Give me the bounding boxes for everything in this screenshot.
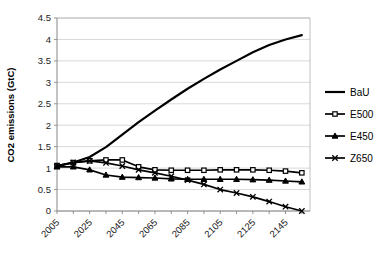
marker-open-square [218, 168, 222, 172]
y-tick-label-0.5: 0.5 [38, 184, 51, 195]
y-axis-label: CO2 emissions (GtC) [5, 67, 16, 162]
y-tick-label-2: 2 [46, 120, 51, 131]
marker-open-square [120, 158, 124, 162]
legend-label-BaU: BaU [350, 87, 369, 98]
marker-open-square [185, 168, 189, 172]
marker-open-square [234, 168, 238, 172]
y-tick-label-3.5: 3.5 [38, 55, 51, 66]
marker-open-square [300, 171, 304, 175]
marker-open-square [333, 112, 337, 116]
legend-label-E500: E500 [350, 109, 374, 120]
y-tick-label-3: 3 [46, 77, 51, 88]
legend-label-Z650: Z650 [350, 153, 373, 164]
marker-open-square [267, 168, 271, 172]
y-tick-label-2.5: 2.5 [38, 98, 51, 109]
marker-open-square [202, 168, 206, 172]
chart-container: 00.511.522.533.544.5 2005202520452065208… [0, 0, 389, 264]
y-tick-label-1: 1 [46, 163, 51, 174]
marker-open-square [169, 168, 173, 172]
marker-open-square [251, 168, 255, 172]
legend-label-E450: E450 [350, 131, 374, 142]
y-tick-label-4: 4 [46, 34, 51, 45]
y-tick-label-4.5: 4.5 [38, 12, 51, 23]
co2-emissions-line-chart: 00.511.522.533.544.5 2005202520452065208… [0, 0, 389, 264]
marker-open-square [283, 169, 287, 173]
y-tick-label-1.5: 1.5 [38, 141, 51, 152]
y-tick-label-0: 0 [46, 205, 51, 216]
